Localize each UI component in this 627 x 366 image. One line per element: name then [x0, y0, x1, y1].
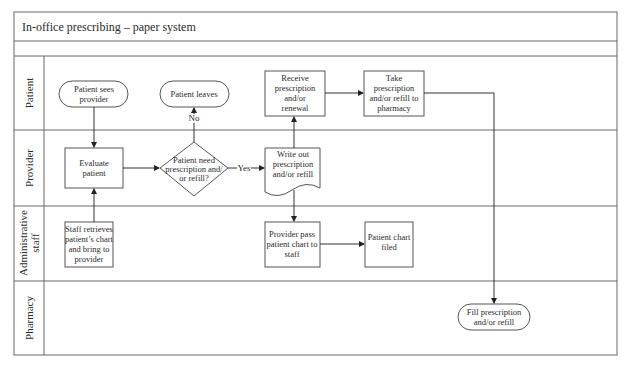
node-text: Evaluate [79, 158, 109, 168]
edge-label-no: No [189, 113, 200, 123]
diagram-title: In-office prescribing – paper system [22, 20, 196, 34]
node-text: prescription [374, 83, 415, 93]
node-text: renewal [282, 103, 310, 113]
swimlane-diagram: In-office prescribing – paper system Pat… [0, 0, 627, 366]
lane-label-patient: Patient [23, 78, 35, 109]
node-text: prescription [273, 159, 314, 169]
node-text: prescription [275, 83, 316, 93]
node-text: Patient chart [368, 232, 411, 242]
node-text: and/or refill [273, 169, 314, 179]
node-text: Receive [281, 73, 309, 83]
node-text: provider [80, 94, 109, 104]
node-text: patient’s chart [65, 234, 114, 244]
node-text: and bring to [68, 244, 109, 254]
node-text: Fill prescription [467, 307, 522, 317]
node-text: Provider pass [269, 229, 315, 239]
node-text: Take [386, 73, 403, 83]
node-text: Patient leaves [171, 89, 218, 99]
node-text: and/or refill to [369, 93, 418, 103]
node-text: or refill? [179, 173, 209, 183]
node-text: patient [82, 168, 106, 178]
lane-label-provider: Provider [23, 149, 35, 187]
node-text: and/or refill [474, 317, 515, 327]
node-text: patient chart to [267, 239, 318, 249]
node-text: Write out [277, 149, 310, 159]
lane-label-pharmacy: Pharmacy [23, 296, 35, 340]
edge-take-to-fill [424, 93, 494, 303]
edge-label-yes: Yes [237, 163, 251, 173]
lane-label-admin-line1: Administrative [17, 210, 29, 276]
node-text: filed [381, 242, 397, 252]
node-text: and/or [284, 93, 306, 103]
node-text: Staff retrieves [65, 224, 113, 234]
node-text: provider [75, 254, 104, 264]
node-text: staff [285, 249, 300, 259]
lane-label-admin-line2: staff [29, 233, 41, 253]
node-text: pharmacy [377, 103, 411, 113]
node-text: Patient sees [74, 84, 114, 94]
